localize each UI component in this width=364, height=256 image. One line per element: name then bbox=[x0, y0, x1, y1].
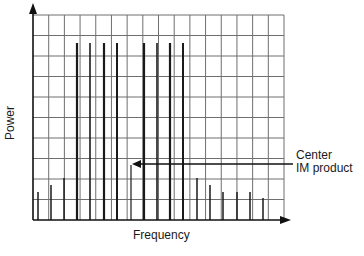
y-axis-arrow-icon bbox=[29, 3, 37, 14]
axes bbox=[29, 3, 291, 224]
annotation-arrow bbox=[132, 160, 293, 168]
annotation-line2: IM product bbox=[296, 162, 353, 175]
y-axis-label: Power bbox=[4, 106, 17, 140]
spectrum-plot bbox=[0, 0, 364, 256]
annotation-label: Center IM product bbox=[296, 149, 353, 175]
grid bbox=[33, 15, 284, 220]
x-axis-label: Frequency bbox=[133, 229, 190, 242]
annotation-arrow-icon bbox=[132, 160, 141, 168]
x-axis-arrow-icon bbox=[280, 216, 291, 224]
spectral-lines bbox=[38, 43, 263, 220]
